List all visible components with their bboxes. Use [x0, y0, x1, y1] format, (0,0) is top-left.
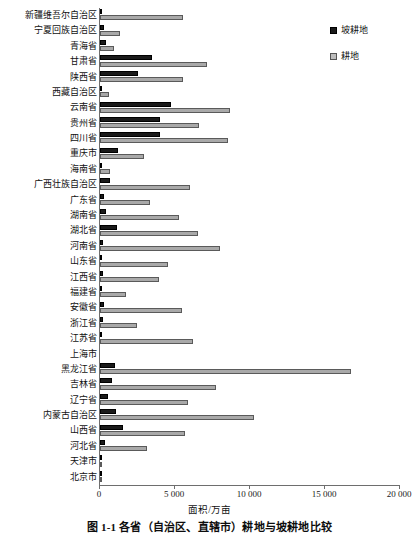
bar-slope-farmland [100, 317, 103, 322]
chart-row: 山西省 [0, 423, 419, 438]
category-label: 吉林省 [70, 378, 97, 391]
chart-row: 江西省 [0, 270, 419, 285]
category-label: 西藏自治区 [52, 86, 97, 99]
x-axis-title: 面积/万亩 [0, 502, 419, 516]
bar-slope-farmland [100, 425, 123, 430]
bar-slope-farmland [100, 394, 108, 399]
chart-row: 上海市 [0, 347, 419, 362]
category-label: 广西壮族自治区 [34, 178, 97, 191]
chart-row: 湖南省 [0, 208, 419, 223]
x-axis-tick-label: 5 000 [164, 489, 184, 500]
x-axis-tick-label: 10 000 [237, 489, 262, 500]
bar-farmland [100, 477, 102, 482]
category-label: 浙江省 [70, 317, 97, 330]
bar-slope-farmland [100, 178, 110, 183]
chart-row: 黑龙江省 [0, 362, 419, 377]
chart-row: 安徽省 [0, 300, 419, 315]
category-label: 重庆市 [70, 147, 97, 160]
x-axis-tick-label: 0 [97, 489, 102, 500]
bar-farmland [100, 277, 159, 282]
slope-swatch-icon [330, 27, 337, 34]
category-label: 北京市 [70, 471, 97, 484]
category-label: 云南省 [70, 101, 97, 114]
category-label: 贵州省 [70, 117, 97, 130]
x-axis-tick-label: 20 000 [387, 489, 412, 500]
bar-farmland [100, 246, 220, 251]
legend-label-crop: 耕地 [341, 51, 359, 62]
bar-farmland [100, 262, 168, 267]
bar-slope-farmland [100, 332, 102, 337]
bar-farmland [100, 292, 126, 297]
legend-item-crop[interactable]: 耕地 [330, 50, 416, 63]
x-axis-tick-label: 15 000 [312, 489, 337, 500]
bar-farmland [100, 323, 137, 328]
chart-row: 新疆维吾尔自治区 [0, 8, 419, 23]
bar-slope-farmland [100, 409, 116, 414]
bar-farmland [100, 462, 102, 467]
category-label: 四川省 [70, 132, 97, 145]
chart-row: 北京市 [0, 470, 419, 485]
bar-slope-farmland [100, 240, 103, 245]
bar-slope-farmland [100, 9, 102, 14]
category-label: 黑龙江省 [61, 363, 97, 376]
bar-slope-farmland [100, 71, 138, 76]
category-label: 广东省 [70, 194, 97, 207]
bar-slope-farmland [100, 55, 152, 60]
bar-farmland [100, 369, 351, 374]
bar-slope-farmland [100, 286, 102, 291]
bar-farmland [100, 154, 144, 159]
bar-slope-farmland [100, 225, 117, 230]
category-label: 福建省 [70, 286, 97, 299]
legend-item-slope[interactable]: 坡耕地 [330, 24, 416, 37]
bar-farmland [100, 446, 147, 451]
bar-slope-farmland [100, 271, 103, 276]
bar-slope-farmland [100, 102, 171, 107]
category-label: 宁夏回族自治区 [34, 24, 97, 37]
bar-farmland [100, 62, 207, 67]
bar-farmland [100, 339, 193, 344]
category-label: 内蒙古自治区 [43, 409, 97, 422]
category-label: 江苏省 [70, 332, 97, 345]
chart-row: 江苏省 [0, 331, 419, 346]
category-label: 海南省 [70, 163, 97, 176]
bar-slope-farmland [100, 132, 160, 137]
bar-slope-farmland [100, 471, 102, 476]
bar-slope-farmland [100, 363, 115, 368]
bar-slope-farmland [100, 148, 118, 153]
bar-farmland [100, 31, 120, 36]
bar-slope-farmland [100, 40, 106, 45]
chart-row: 辽宁省 [0, 393, 419, 408]
chart-row: 四川省 [0, 131, 419, 146]
bar-slope-farmland [100, 378, 112, 383]
category-label: 青海省 [70, 40, 97, 53]
bar-farmland [100, 308, 182, 313]
category-label: 河南省 [70, 240, 97, 253]
category-label: 新疆维吾尔自治区 [25, 9, 97, 22]
chart-row: 湖北省 [0, 223, 419, 238]
category-label: 辽宁省 [70, 394, 97, 407]
bar-farmland [100, 46, 114, 51]
category-label: 甘肃省 [70, 55, 97, 68]
bar-farmland [100, 215, 179, 220]
chart-row: 广西壮族自治区 [0, 177, 419, 192]
bar-farmland [100, 200, 150, 205]
chart-row: 浙江省 [0, 316, 419, 331]
bar-slope-farmland [100, 86, 102, 91]
chart-row: 山东省 [0, 254, 419, 269]
bar-slope-farmland [100, 302, 104, 307]
category-label: 陕西省 [70, 71, 97, 84]
bar-farmland [100, 431, 185, 436]
chart-row: 吉林省 [0, 377, 419, 392]
bar-farmland [100, 108, 230, 113]
chart-row: 海南省 [0, 162, 419, 177]
legend-label-slope: 坡耕地 [341, 25, 368, 36]
chart-row: 广东省 [0, 193, 419, 208]
figure-bar-chart: 新疆维吾尔自治区宁夏回族自治区青海省甘肃省陕西省西藏自治区云南省贵州省四川省重庆… [0, 0, 419, 538]
bar-farmland [100, 400, 188, 405]
category-label: 湖北省 [70, 224, 97, 237]
category-label: 山西省 [70, 424, 97, 437]
chart-row: 河南省 [0, 239, 419, 254]
category-label: 山东省 [70, 255, 97, 268]
category-label: 上海市 [70, 348, 97, 361]
category-label: 天津市 [70, 455, 97, 468]
